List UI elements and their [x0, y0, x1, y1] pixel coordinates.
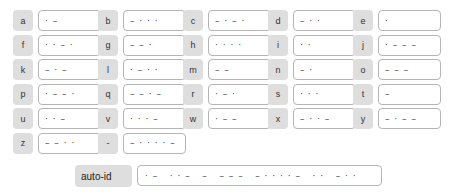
field-d: d– · · — [268, 10, 350, 31]
field-z: z– – · · — [13, 133, 95, 154]
field-label: i — [268, 35, 288, 56]
field-label: d — [268, 10, 288, 31]
field-input[interactable]: · – · — [208, 84, 271, 105]
field-input[interactable]: – · — [293, 59, 356, 80]
auto-id-input[interactable]: · – · · – – – – – – · · · · – · · – · · — [137, 165, 382, 186]
field-input[interactable]: · · · · — [208, 35, 271, 56]
field-r: r· – · — [183, 84, 265, 105]
field-x: x– · · – — [268, 108, 350, 129]
field-input[interactable]: – · · – — [293, 108, 356, 129]
field-input[interactable]: · · — [293, 35, 356, 56]
field-label: g — [98, 35, 118, 56]
field-input[interactable]: · – · · — [123, 59, 186, 80]
field-label: o — [353, 59, 373, 80]
auto-id-label: auto-id — [75, 165, 132, 187]
field-input[interactable]: · · – · — [38, 35, 101, 56]
field-input[interactable]: – – · — [123, 35, 186, 56]
field-label: c — [183, 10, 203, 31]
field-label: f — [13, 35, 33, 56]
field-input[interactable]: · · – — [38, 108, 101, 129]
field-input[interactable]: · – — [38, 10, 101, 31]
field-e: e· — [353, 10, 435, 31]
field-y: y– · – – — [353, 108, 435, 129]
field-label: l — [98, 59, 118, 80]
field-hyphen: -– · · · · – — [98, 133, 180, 154]
field-input[interactable]: – – – — [378, 59, 441, 80]
field-label: n — [268, 59, 288, 80]
field-label: a — [13, 10, 33, 31]
field-u: u· · – — [13, 108, 95, 129]
field-input[interactable]: · – – — [208, 108, 271, 129]
field-label: m — [183, 59, 203, 80]
field-a: a· – — [13, 10, 95, 31]
field-input[interactable]: – · – – — [378, 108, 441, 129]
field-input[interactable]: – · · · — [123, 10, 186, 31]
field-input[interactable]: – — [378, 84, 441, 105]
field-label: q — [98, 84, 118, 105]
field-b: b– · · · — [98, 10, 180, 31]
field-v: v· · · – — [98, 108, 180, 129]
field-input[interactable]: – – · – — [123, 84, 186, 105]
field-label: w — [183, 108, 203, 129]
field-label: y — [353, 108, 373, 129]
field-label: k — [13, 59, 33, 80]
field-i: i· · — [268, 35, 350, 56]
field-label: s — [268, 84, 288, 105]
field-g: g– – · — [98, 35, 180, 56]
field-h: h· · · · — [183, 35, 265, 56]
field-w: w· – – — [183, 108, 265, 129]
field-l: l· – · · — [98, 59, 180, 80]
field-n: n– · — [268, 59, 350, 80]
field-p: p· – – · — [13, 84, 95, 105]
field-label: z — [13, 133, 33, 154]
field-m: m– – — [183, 59, 265, 80]
field-input[interactable]: – · · — [293, 10, 356, 31]
field-input[interactable]: – – — [208, 59, 271, 80]
field-input[interactable]: – – · · — [38, 133, 101, 154]
field-label: e — [353, 10, 373, 31]
field-input[interactable]: · – – · — [38, 84, 101, 105]
field-o: o– – – — [353, 59, 435, 80]
field-label: h — [183, 35, 203, 56]
field-label: - — [98, 133, 118, 154]
field-label: j — [353, 35, 373, 56]
field-input[interactable]: · – – – — [378, 35, 441, 56]
field-label: v — [98, 108, 118, 129]
field-input[interactable]: – · · · · – — [123, 133, 186, 154]
field-input[interactable]: · — [378, 10, 441, 31]
field-label: t — [353, 84, 373, 105]
field-k: k– · – — [13, 59, 95, 80]
field-f: f· · – · — [13, 35, 95, 56]
field-label: r — [183, 84, 203, 105]
field-j: j· – – – — [353, 35, 435, 56]
field-input[interactable]: – · – · — [208, 10, 271, 31]
field-c: c– · – · — [183, 10, 265, 31]
field-input[interactable]: · · · — [293, 84, 356, 105]
field-input[interactable]: · · · – — [123, 108, 186, 129]
field-q: q– – · – — [98, 84, 180, 105]
field-input[interactable]: – · – — [38, 59, 101, 80]
field-label: b — [98, 10, 118, 31]
field-label: x — [268, 108, 288, 129]
field-label: u — [13, 108, 33, 129]
field-t: t– — [353, 84, 435, 105]
field-label: p — [13, 84, 33, 105]
field-s: s· · · — [268, 84, 350, 105]
